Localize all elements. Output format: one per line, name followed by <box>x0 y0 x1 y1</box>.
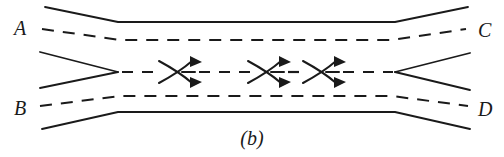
wall-streamlines <box>40 29 468 106</box>
outlet-wedge-lower <box>395 72 470 90</box>
figure-container: A B C D (b) <box>0 0 504 157</box>
top-dashed-streamline <box>42 29 466 40</box>
crossing-flow-arrow-icon <box>248 56 291 88</box>
inlet-wedge-upper <box>40 52 118 72</box>
bottom-dashed-streamline <box>40 96 468 106</box>
top-wall-line <box>45 7 468 22</box>
crossing-arrowhead-upper <box>190 56 202 67</box>
port-label-b: B <box>14 98 26 118</box>
crossing-arrowhead-upper <box>279 56 291 67</box>
crossing-arrowhead-lower <box>334 77 346 88</box>
crossing-arrowhead-lower <box>190 77 202 88</box>
port-label-d: D <box>478 99 492 119</box>
crossing-flow-arrow-icon <box>303 56 346 88</box>
port-label-c: C <box>478 20 491 40</box>
port-label-a: A <box>14 18 26 38</box>
crossing-arrowhead-lower <box>279 77 291 88</box>
outlet-wedge-upper <box>395 53 470 72</box>
figure-caption: (b) <box>0 128 504 148</box>
duct-walls <box>42 7 470 129</box>
crossing-arrowhead-upper <box>334 56 346 67</box>
crossing-flow-arrow-icon <box>159 56 202 88</box>
outlet-wedge-icon <box>395 53 470 90</box>
inlet-wedge-icon <box>40 52 118 88</box>
inlet-wedge-lower <box>40 72 118 88</box>
